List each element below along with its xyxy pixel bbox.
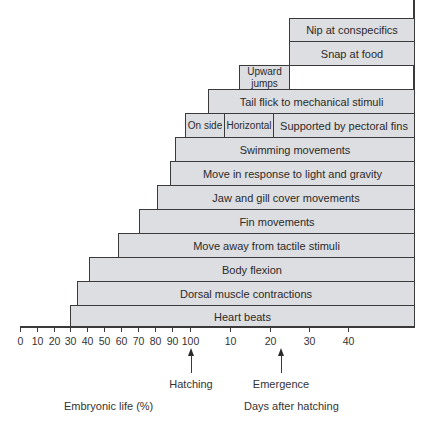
behavior-bar: Tail flick to mechanical stimuli [208,89,415,114]
behavior-bar-label: Fin movements [239,216,314,228]
axis-tick-label: 90 [167,335,179,347]
axis-tick-label: 80 [150,335,162,347]
axis-tick [104,327,105,332]
behavior-bar-label: On side [188,120,222,132]
axis-tick [309,327,310,332]
axis-tick [20,327,21,332]
behavior-bar-label: Nip at conspecifics [306,24,398,36]
behavior-bar: Move away from tactile stimuli [118,233,415,258]
axis-tick [121,327,122,332]
axis-tick-label: 50 [99,335,111,347]
behavior-bar-label: Upward jumps [245,66,285,90]
axis-tick-label: 0 [18,335,24,347]
axis-tick [230,327,231,332]
axis-tick-label: 40 [343,335,355,347]
behavior-bar: Horizontal [224,113,274,138]
axis-tick-label: 70 [133,335,145,347]
embryonic-axis-label: Embryonic life (%) [64,400,153,412]
behavior-bar-label: Heart beats [214,311,271,323]
behavior-bar: Fin movements [139,209,415,234]
behavior-bar: Body flexion [89,257,415,282]
behavior-bar-label: Move away from tactile stimuli [193,240,340,252]
axis-tick-label: 30 [65,335,77,347]
axis-tick-label: 100 [182,335,200,347]
axis-tick [190,327,191,332]
axis-tick [155,327,156,332]
behavior-bar: Jaw and gill cover movements [157,185,415,210]
time-axis-line [20,326,414,328]
axis-tick [138,327,139,332]
days-axis-label: Days after hatching [244,400,339,412]
axis-tick [54,327,55,332]
axis-tick-label: 20 [265,335,277,347]
axis-tick [37,327,38,332]
behavior-bar-label: Tail flick to mechanical stimuli [240,96,384,108]
axis-tick-label: 30 [304,335,316,347]
behavior-bar-label: Supported by pectoral fins [280,120,408,132]
behavior-bar: Supported by pectoral fins [273,113,415,138]
behavior-bar: Nip at conspecifics [289,18,415,42]
axis-tick [348,327,349,332]
behavior-bar: Move in response to light and gravity [170,161,415,186]
axis-tick-label: 20 [49,335,61,347]
axis-tick-label: 40 [82,335,94,347]
behavior-bar: Snap at food [289,41,415,66]
arrow-shaft [281,355,282,373]
behavior-bar: Swimming movements [175,137,415,162]
behavior-bar: On side [185,113,225,138]
behavior-bar-label: Jaw and gill cover movements [212,192,359,204]
event-marker-label: Emergence [253,378,309,390]
behavior-bar-label: Swimming movements [240,144,351,156]
axis-tick-label: 10 [225,335,237,347]
behavior-bar-label: Body flexion [222,264,282,276]
behavior-bar: Heart beats [70,305,415,328]
axis-tick [87,327,88,332]
event-marker-label: Hatching [169,378,212,390]
behavior-bar-label: Dorsal muscle contractions [180,288,312,300]
behavior-bar-label: Horizontal [226,120,271,132]
axis-tick-label: 10 [32,335,44,347]
axis-tick [172,327,173,332]
behavior-bar-label: Move in response to light and gravity [203,168,382,180]
axis-tick [70,327,71,332]
behavior-bar: Upward jumps [239,65,290,90]
arrow-shaft [191,355,192,373]
behavior-bar: Dorsal muscle contractions [77,281,415,306]
behavior-bar-label: Snap at food [321,48,383,60]
axis-tick-label: 60 [116,335,128,347]
axis-tick [270,327,271,332]
